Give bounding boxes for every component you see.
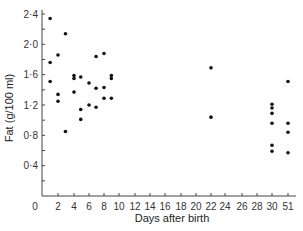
data-point xyxy=(56,53,60,57)
y-tick-label: 0·4 xyxy=(24,160,39,171)
data-point xyxy=(270,143,274,147)
x-tick-label: 28 xyxy=(251,201,263,212)
data-point xyxy=(286,151,290,155)
data-point xyxy=(48,17,52,21)
data-point xyxy=(79,75,83,79)
data-point xyxy=(87,81,91,85)
data-point xyxy=(72,77,76,81)
x-origin-label: 0 xyxy=(32,201,38,212)
x-tick-label: 20 xyxy=(190,201,202,212)
data-point xyxy=(209,115,213,119)
data-point xyxy=(102,86,106,90)
y-axis-title: Fat (g/100 ml) xyxy=(3,74,15,142)
data-point xyxy=(102,96,106,100)
data-point xyxy=(209,66,213,70)
x-tick-label: 30 xyxy=(266,201,278,212)
data-point xyxy=(270,112,274,116)
data-point xyxy=(270,102,274,106)
x-axis-title: Days after birth xyxy=(135,212,210,224)
data-point xyxy=(94,87,98,91)
data-point xyxy=(72,90,76,94)
x-tick-label: 4 xyxy=(71,201,77,212)
data-point xyxy=(102,52,106,56)
x-tick-label: 10 xyxy=(113,201,125,212)
data-point xyxy=(286,80,290,84)
x-tick-label: 26 xyxy=(236,201,248,212)
x-tick-label: 16 xyxy=(159,201,171,212)
data-point xyxy=(64,130,68,134)
data-point xyxy=(286,121,290,125)
x-tick-label: 24 xyxy=(219,201,231,212)
x-tick-label: 18 xyxy=(175,201,187,212)
x-axis: 02468101214161820222426283051 xyxy=(32,193,296,212)
data-point xyxy=(48,80,52,84)
data-points xyxy=(48,17,289,155)
y-tick-label: 0·8 xyxy=(24,130,39,141)
x-tick-label: 6 xyxy=(86,201,92,212)
data-point xyxy=(110,77,114,81)
y-tick-label: 2·0 xyxy=(24,39,39,50)
x-tick-label: 2 xyxy=(55,201,61,212)
y-tick-label: 2·4 xyxy=(24,9,39,20)
data-point xyxy=(64,32,68,36)
data-point xyxy=(79,118,83,122)
x-tick-label: 8 xyxy=(101,201,107,212)
data-point xyxy=(110,96,114,100)
data-point xyxy=(87,103,91,107)
x-tick-label: 14 xyxy=(144,201,156,212)
data-point xyxy=(270,121,274,125)
data-point xyxy=(48,61,52,65)
data-point xyxy=(286,131,290,135)
data-point xyxy=(56,99,60,103)
scatter-chart: 0·40·81·21·62·02·4 024681012141618202224… xyxy=(0,0,303,231)
data-point xyxy=(94,55,98,59)
y-tick-label: 1·2 xyxy=(24,100,39,111)
y-axis: 0·40·81·21·62·02·4 xyxy=(24,9,45,197)
x-tick-label: 12 xyxy=(129,201,141,212)
data-point xyxy=(79,108,83,112)
y-tick-label: 1·6 xyxy=(24,69,39,80)
data-point xyxy=(94,105,98,109)
data-point xyxy=(270,106,274,110)
data-point xyxy=(56,93,60,97)
x-tick-label: 22 xyxy=(205,201,217,212)
data-point xyxy=(270,149,274,153)
x-tick-label: 51 xyxy=(282,201,294,212)
